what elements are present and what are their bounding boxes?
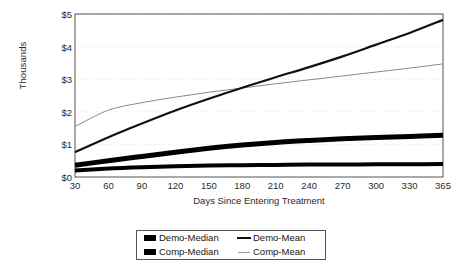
legend-swatch-icon bbox=[143, 245, 157, 259]
legend-label: Comp-Mean bbox=[253, 246, 305, 258]
chart-legend: Demo-Median Demo-Mean Comp-Median Comp-M… bbox=[136, 230, 326, 260]
series-line-comp-mean bbox=[75, 64, 443, 127]
x-axis-title: Days Since Entering Treatment bbox=[75, 195, 443, 206]
legend-swatch-icon bbox=[237, 245, 251, 259]
legend-label: Demo-Median bbox=[159, 232, 219, 244]
series-line-comp-median bbox=[75, 164, 443, 171]
plot-frame bbox=[75, 14, 443, 177]
legend-item-comp-median: Comp-Median bbox=[137, 245, 235, 259]
chart-container: Thousands $0$1$2$3$4$5 30609012015018021… bbox=[0, 0, 461, 269]
legend-item-comp-mean: Comp-Mean bbox=[235, 245, 325, 259]
plot-area bbox=[0, 0, 461, 269]
legend-row: Comp-Median Comp-Mean bbox=[137, 245, 325, 259]
series-line-demo-median bbox=[75, 135, 443, 165]
legend-swatch-icon bbox=[237, 231, 251, 245]
data-series-layer bbox=[75, 20, 443, 171]
legend-row: Demo-Median Demo-Mean bbox=[137, 231, 325, 245]
legend-swatch-icon bbox=[143, 231, 157, 245]
gridlines bbox=[75, 14, 443, 144]
legend-label: Comp-Median bbox=[159, 246, 219, 258]
legend-label: Demo-Mean bbox=[253, 232, 305, 244]
legend-item-demo-median: Demo-Median bbox=[137, 231, 235, 245]
legend-item-demo-mean: Demo-Mean bbox=[235, 231, 325, 245]
